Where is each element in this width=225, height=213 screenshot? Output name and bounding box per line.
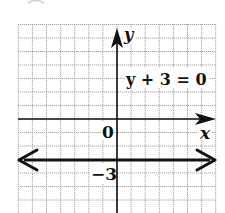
intercept-label: −3	[91, 164, 117, 184]
equation-label: y + 3 = 0	[125, 70, 207, 89]
y-axis	[111, 28, 123, 213]
x-axis-label: x	[199, 123, 211, 143]
coordinate-graph: y + 3 = 0 y x 0 −3	[0, 0, 225, 213]
cutoff-mark	[28, 1, 44, 4]
origin-label: 0	[102, 122, 114, 142]
y-axis-label: y	[123, 25, 135, 44]
